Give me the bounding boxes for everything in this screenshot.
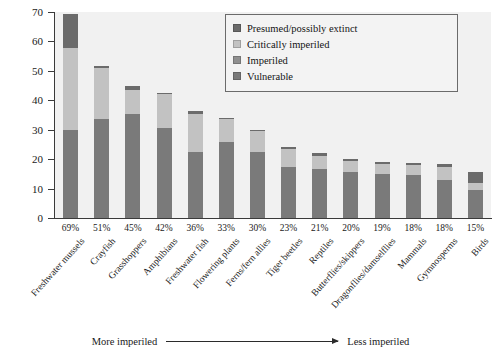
- bar-stack: [281, 147, 296, 218]
- legend-item-vulnerable: Vulnerable: [233, 69, 450, 83]
- x-axis-category-label: Birds: [470, 236, 491, 258]
- bar-segment: [250, 152, 265, 218]
- bar-segment: [188, 152, 203, 218]
- x-axis-category-label: Crayfish: [88, 236, 117, 267]
- bar-stack: [406, 163, 421, 218]
- bar-segment: [188, 114, 203, 152]
- legend: Presumed/possibly extinct Critically imp…: [225, 14, 458, 92]
- bar-segment: [219, 142, 234, 219]
- y-axis-tick-label: 10: [15, 184, 43, 194]
- y-axis-tick-label: 0: [15, 213, 43, 223]
- bar-segment: [157, 94, 172, 128]
- bar-stack: [63, 14, 78, 219]
- bar-segment: [312, 156, 327, 169]
- y-axis-tick-label: 70: [15, 7, 43, 17]
- bar-segment: [343, 172, 358, 218]
- annotation-left-label: More imperiled: [92, 336, 158, 347]
- legend-swatch-icon: [233, 72, 241, 80]
- bar-segment: [437, 167, 452, 180]
- annotation-right-label: Less imperiled: [347, 336, 409, 347]
- bar-stack: [312, 153, 327, 218]
- bar-segment: [63, 14, 78, 48]
- bar-segment: [343, 161, 358, 173]
- legend-item-imperiled: Imperiled: [233, 53, 450, 67]
- bar-segment: [219, 119, 234, 141]
- bar-stack: [250, 130, 265, 218]
- y-axis-tick-label: 30: [15, 125, 43, 135]
- bar-segment: [125, 114, 140, 218]
- y-axis-tick: [48, 189, 55, 190]
- bar-segment: [406, 175, 421, 218]
- x-axis-category-label: Freshwater mussels: [29, 236, 86, 298]
- bar-stack: [343, 159, 358, 218]
- bar-stack: [375, 162, 390, 218]
- bar-segment: [468, 190, 483, 218]
- y-axis-tick: [48, 100, 55, 101]
- legend-swatch-icon: [233, 24, 241, 32]
- legend-item-label: Vulnerable: [247, 71, 293, 82]
- y-axis-tick-label: 60: [15, 36, 43, 46]
- legend-item-critically-imperiled: Critically imperiled: [233, 37, 450, 51]
- bar-segment: [406, 165, 421, 175]
- arrow-right-icon: [166, 341, 338, 342]
- legend-item-presumed-extinct: Presumed/possibly extinct: [233, 21, 450, 35]
- y-axis-tick: [48, 12, 55, 13]
- bar-segment: [281, 149, 296, 167]
- bar-segment: [468, 183, 483, 190]
- bar-percent-label: 15%: [453, 223, 497, 233]
- bar-segment: [63, 48, 78, 130]
- bar-segment: [468, 172, 483, 182]
- y-axis-tick: [48, 71, 55, 72]
- imperilment-gradient-annotation: More imperiled Less imperiled: [0, 336, 501, 347]
- bar-segment: [281, 167, 296, 219]
- bar-stack: [157, 93, 172, 218]
- y-axis-tick-label: 50: [15, 66, 43, 76]
- legend-swatch-icon: [233, 56, 241, 64]
- y-axis-tick-label: 40: [15, 95, 43, 105]
- x-axis-category-label: Dragonflies/damselflies: [329, 236, 397, 310]
- bar-segment: [437, 180, 452, 218]
- bar-stack: [125, 86, 140, 218]
- x-axis-line: [54, 218, 492, 219]
- bar-segment: [157, 128, 172, 218]
- y-axis-tick: [48, 159, 55, 160]
- bar-stack: [94, 66, 109, 218]
- legend-item-label: Imperiled: [247, 55, 288, 66]
- bar-segment: [375, 174, 390, 218]
- bar-segment: [94, 68, 109, 120]
- legend-swatch-icon: [233, 40, 241, 48]
- bar-segment: [94, 119, 109, 218]
- y-axis-tick: [48, 41, 55, 42]
- bar-segment: [63, 130, 78, 218]
- legend-item-label: Critically imperiled: [247, 39, 330, 50]
- bar-segment: [125, 90, 140, 114]
- y-axis-tick: [48, 218, 55, 219]
- x-axis-category-label: Reptiles: [307, 236, 335, 266]
- bar-segment: [250, 131, 265, 152]
- x-axis-category-label: Butterflies/skippers: [309, 236, 366, 298]
- legend-item-label: Presumed/possibly extinct: [247, 23, 358, 34]
- bar-stack: [219, 118, 234, 218]
- y-axis-tick: [48, 130, 55, 131]
- bar-stack: [437, 164, 452, 218]
- bar-stack: [468, 172, 483, 218]
- bar-stack: [188, 111, 203, 218]
- y-axis-tick-label: 20: [15, 154, 43, 164]
- bar-segment: [312, 169, 327, 218]
- bar-segment: [375, 164, 390, 173]
- chart-container: 010203040506070 Percent of species 69%Fr…: [0, 0, 501, 364]
